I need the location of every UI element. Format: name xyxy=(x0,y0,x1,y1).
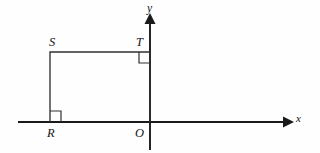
x-axis-label: x xyxy=(296,113,301,124)
y-axis-arrowhead-icon xyxy=(145,13,156,24)
rectangle-RSTO xyxy=(50,52,150,122)
right-angle-mark-T-icon xyxy=(139,52,150,63)
vertex-label-R: R xyxy=(47,127,55,140)
y-axis-label: y xyxy=(147,3,152,15)
origin-label-O: O xyxy=(135,127,144,140)
right-angle-mark-R-icon xyxy=(50,111,61,122)
vertex-label-S: S xyxy=(49,36,55,49)
geometry-figure: S T R O y x xyxy=(0,0,320,153)
x-axis-arrowhead-icon xyxy=(283,117,294,128)
vertex-label-T: T xyxy=(136,36,143,49)
